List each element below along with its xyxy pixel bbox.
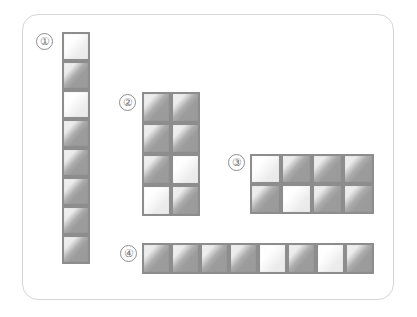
tile-group-2 xyxy=(142,92,200,216)
tile xyxy=(312,184,343,214)
tile xyxy=(62,206,90,235)
tile xyxy=(200,243,229,274)
group-label-1: ① xyxy=(36,33,53,50)
tile xyxy=(345,243,374,274)
tile xyxy=(62,119,90,148)
tile-group-3 xyxy=(250,154,374,214)
tile xyxy=(171,154,200,185)
tile xyxy=(62,177,90,206)
tile xyxy=(281,154,312,184)
group-label-3: ③ xyxy=(228,154,245,171)
tile xyxy=(343,154,374,184)
tile xyxy=(142,92,171,123)
tile xyxy=(250,154,281,184)
tile xyxy=(142,185,171,216)
tile xyxy=(171,243,200,274)
tile xyxy=(142,154,171,185)
tile xyxy=(171,92,200,123)
tile xyxy=(62,61,90,90)
tile-group-1 xyxy=(62,32,90,264)
tile xyxy=(343,184,374,214)
tile xyxy=(316,243,345,274)
tile xyxy=(142,123,171,154)
tile xyxy=(62,148,90,177)
tile xyxy=(62,235,90,264)
tile xyxy=(142,243,171,274)
tile xyxy=(62,90,90,119)
tile xyxy=(171,185,200,216)
diagram-stage: ① ② ③ ④ xyxy=(0,0,417,317)
tile xyxy=(312,154,343,184)
tile xyxy=(281,184,312,214)
tile xyxy=(287,243,316,274)
group-label-2: ② xyxy=(119,94,136,111)
tile xyxy=(250,184,281,214)
group-label-4: ④ xyxy=(120,245,137,262)
tile xyxy=(229,243,258,274)
tile-group-4 xyxy=(142,243,374,274)
tile xyxy=(258,243,287,274)
tile xyxy=(62,32,90,61)
tile xyxy=(171,123,200,154)
